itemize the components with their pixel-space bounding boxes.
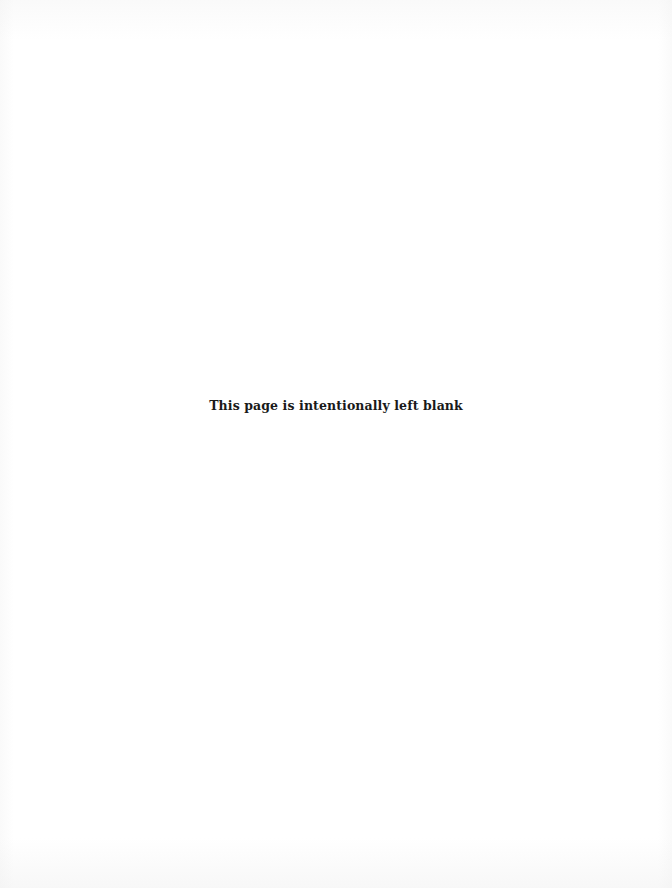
blank-page: This page is intentionally left blank (0, 0, 672, 888)
blank-page-notice: This page is intentionally left blank (0, 397, 672, 415)
